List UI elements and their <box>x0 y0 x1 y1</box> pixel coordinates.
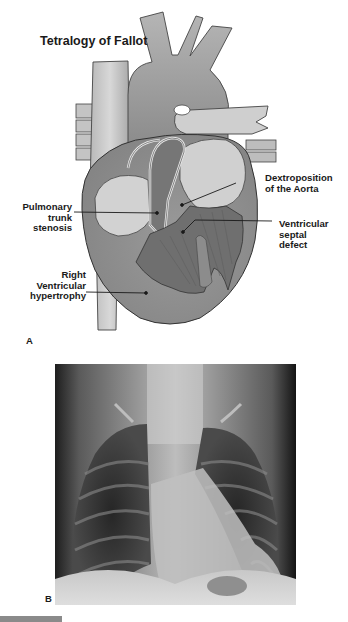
right-atrium <box>95 176 150 237</box>
label-dextroposition-aorta: Dextroposition of the Aorta <box>265 173 333 194</box>
figure-title: Tetralogy of Fallot <box>40 34 147 48</box>
chest-xray-image <box>55 364 296 605</box>
panel-letter-a: A <box>26 335 33 346</box>
chest-radiograph <box>55 364 296 605</box>
panel-letter-b: B <box>45 593 52 604</box>
label-pulmonary-trunk-stenosis: Pulmonary trunk stenosis <box>18 202 72 234</box>
label-ventricular-septal-defect: Ventricular septal defect <box>279 219 329 251</box>
label-right-ventricular-hypertrophy: Right Ventricular hypertrophy <box>20 270 86 302</box>
left-atrium <box>180 139 245 210</box>
page-edge-bar <box>0 616 62 622</box>
